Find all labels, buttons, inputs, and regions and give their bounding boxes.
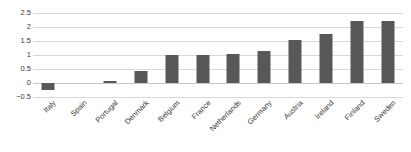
y-tick-label: 2 — [3, 23, 31, 31]
y-axis: −0.500.511.522.5 — [0, 13, 31, 97]
bar[interactable] — [165, 55, 178, 83]
x-tick-label: Finland — [343, 99, 366, 122]
bars-layer — [33, 13, 403, 97]
bar-slot — [187, 13, 218, 97]
bar-slot — [218, 13, 249, 97]
bar[interactable] — [319, 34, 332, 83]
x-tick-label: Germany — [246, 99, 273, 126]
bar[interactable] — [381, 21, 394, 83]
x-tick-label: Belgium — [157, 99, 181, 123]
bar[interactable] — [350, 21, 363, 83]
bar[interactable] — [134, 71, 147, 83]
y-tick-label: 0.5 — [3, 65, 31, 73]
bar-slot — [341, 13, 372, 97]
plot-area — [33, 13, 403, 97]
x-tick-label: Austria — [283, 99, 305, 121]
bar-slot — [126, 13, 157, 97]
bar-slot — [64, 13, 95, 97]
bar[interactable] — [104, 81, 117, 83]
bar[interactable] — [42, 83, 55, 90]
y-tick-label: −0.5 — [3, 93, 31, 101]
x-tick-label: Netherlands — [209, 99, 243, 133]
bar-slot — [311, 13, 342, 97]
bar-chart: −0.500.511.522.5 ItalySpainPortugalDenma… — [0, 0, 411, 152]
bar-slot — [249, 13, 280, 97]
x-axis-labels: ItalySpainPortugalDenmarkBelgiumFranceNe… — [33, 99, 403, 149]
y-tick-label: 2.5 — [3, 9, 31, 17]
y-tick-label: 1.5 — [3, 37, 31, 45]
y-tick-label: 0 — [3, 79, 31, 87]
bar-slot — [33, 13, 64, 97]
bar[interactable] — [289, 40, 302, 83]
y-tick-label: 1 — [3, 51, 31, 59]
x-tick-label: France — [190, 99, 212, 121]
x-tick-label: Sweden — [372, 99, 396, 123]
bar[interactable] — [258, 51, 271, 83]
x-tick-label: Ireland — [314, 99, 336, 121]
x-tick-label: Portugal — [94, 99, 119, 124]
bar-slot — [156, 13, 187, 97]
bar-slot — [95, 13, 126, 97]
bar[interactable] — [227, 54, 240, 83]
x-tick-label: Denmark — [123, 99, 150, 126]
bar-slot — [280, 13, 311, 97]
gridline — [33, 97, 403, 98]
bar[interactable] — [196, 55, 209, 83]
bar-slot — [372, 13, 403, 97]
x-tick-label: Spain — [70, 99, 89, 118]
x-tick-label: Italy — [43, 99, 58, 114]
